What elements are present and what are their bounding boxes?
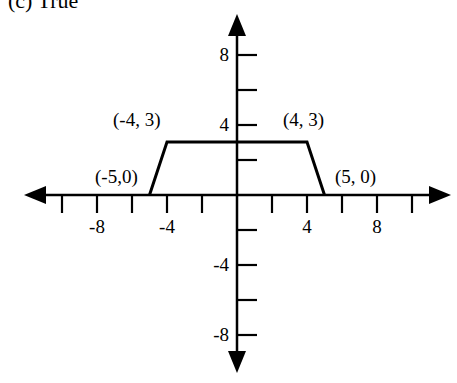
y-tick-label: -4 <box>213 254 229 275</box>
coordinate-plane: -8 -4 4 8 8 4 -4 -8 (-5,0) (-4, 3) (4, 3… <box>0 0 457 383</box>
y-tick-label: 8 <box>220 44 230 65</box>
up-arrow-icon <box>228 14 246 36</box>
x-tick-label: -8 <box>89 216 105 237</box>
y-tick-label: -8 <box>213 324 229 345</box>
left-arrow-icon <box>24 186 46 204</box>
y-axis: 8 4 -4 -8 <box>213 14 257 373</box>
point-label: (-4, 3) <box>113 109 160 131</box>
y-tick-label: 4 <box>220 114 230 135</box>
point-label: (5, 0) <box>335 166 376 188</box>
x-tick-label: 4 <box>302 216 312 237</box>
down-arrow-icon <box>228 351 246 373</box>
x-tick-label: -4 <box>159 216 175 237</box>
x-tick-label: 8 <box>372 216 382 237</box>
right-arrow-icon <box>429 186 451 204</box>
point-label: (-5,0) <box>95 166 138 188</box>
point-label: (4, 3) <box>283 109 324 131</box>
